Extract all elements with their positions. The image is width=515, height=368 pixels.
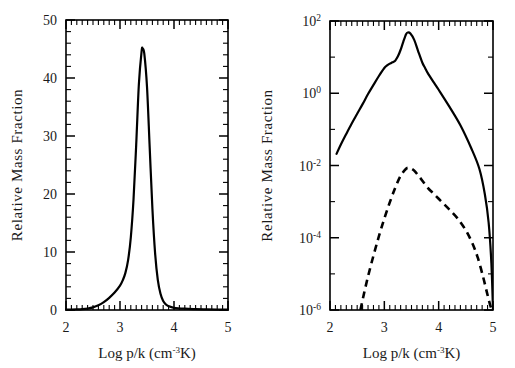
right-y-axis-label: Relative Mass Fraction: [259, 89, 275, 241]
left-y-tick-label-0: 0: [50, 303, 57, 318]
right-y-tick-label-1e-6: 10-6: [299, 302, 321, 318]
left-panel-frame: [66, 20, 228, 310]
right-panel-frame: [330, 21, 493, 310]
left-y-tick-label-20: 20: [43, 187, 57, 202]
figure-canvas: 234501020304050Log p/k (cm-3K)Relative M…: [0, 0, 515, 368]
left-y-tick-label-10: 10: [43, 245, 57, 260]
figure-container: 234501020304050Log p/k (cm-3K)Relative M…: [0, 0, 515, 368]
right-y-tick-label-1e2: 102: [302, 13, 321, 29]
right-y-tick-label-1e-2: 10-2: [299, 158, 321, 174]
left-x-tick-label-2: 2: [63, 320, 70, 335]
left-panel-curve-solid: [66, 48, 228, 310]
plot-frame: [66, 20, 228, 310]
left-y-tick-label-30: 30: [43, 129, 57, 144]
right-x-tick-label-3: 3: [381, 320, 388, 335]
right-x-tick-label-2: 2: [327, 320, 334, 335]
left-x-tick-label-4: 4: [171, 320, 178, 335]
left-x-tick-label-5: 5: [225, 320, 232, 335]
left-x-tick-label-3: 3: [117, 320, 124, 335]
right-x-axis-label: Log p/k (cm-3K): [363, 345, 460, 362]
plot-frame: [330, 21, 493, 310]
right-y-tick-label-1e0: 100: [302, 85, 321, 101]
left-y-tick-label-50: 50: [43, 13, 57, 28]
right-y-tick-label-1e-4: 10-4: [299, 230, 321, 246]
left-y-axis-label: Relative Mass Fraction: [9, 89, 25, 241]
right-panel-curve-dashed: [360, 168, 493, 310]
left-x-axis-label: Log p/k (cm-3K): [98, 345, 195, 362]
left-y-tick-label-40: 40: [43, 71, 57, 86]
right-x-tick-label-5: 5: [490, 320, 497, 335]
right-x-tick-label-4: 4: [435, 320, 442, 335]
